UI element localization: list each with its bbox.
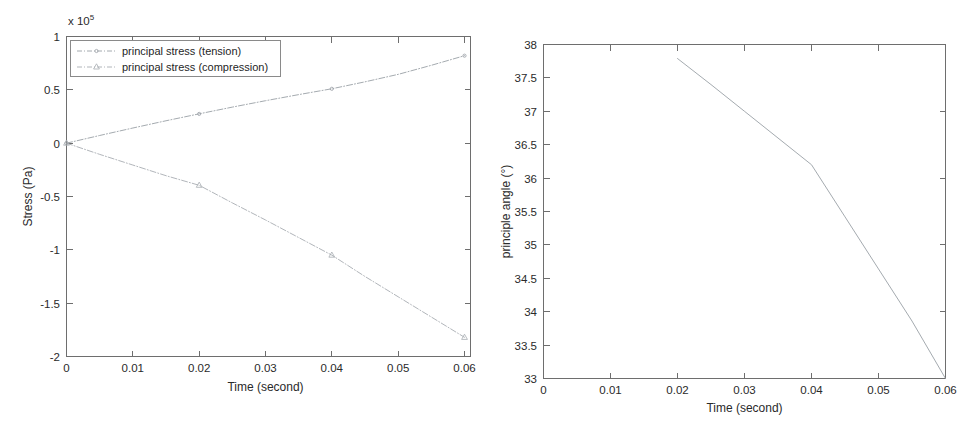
angle-x-ticks <box>544 45 946 379</box>
y-tick-label: 0 <box>54 138 60 150</box>
stress-plot-figure: x 105 <box>0 0 490 421</box>
y-tick-label: 36.5 <box>515 139 537 151</box>
y-tick-label: 37.5 <box>515 72 537 84</box>
y-tick-label: 0.5 <box>44 84 60 96</box>
angle-plot-svg: 38 37.5 37 36.5 36 35.5 35 34.5 34 33.5 … <box>490 0 977 421</box>
compression-series-line <box>67 143 465 337</box>
y-tick-label: -2 <box>50 351 60 363</box>
x-tick-label: 0.05 <box>387 362 409 374</box>
stress-y-axis-title: Stress (Pa) <box>21 166 35 226</box>
y-tick-label: 38 <box>524 39 537 51</box>
legend-label-tension: principal stress (tension) <box>122 45 241 57</box>
angle-y-axis-title: principle angle (°) <box>499 165 513 259</box>
y-tick-label: 33 <box>524 373 537 385</box>
angle-y-tick-labels: 38 37.5 37 36.5 36 35.5 35 34.5 34 33.5 … <box>515 39 538 385</box>
x-tick-label: 0 <box>540 384 546 396</box>
y-tick-label: -0.5 <box>40 191 60 203</box>
angle-y-ticks <box>544 45 946 379</box>
x-tick-label: 0.04 <box>800 384 823 396</box>
legend-label-compression: principal stress (compression) <box>122 61 268 73</box>
x-tick-label: 0.06 <box>934 384 956 396</box>
angle-plot-box <box>544 45 946 379</box>
x-tick-label: 0.01 <box>599 384 621 396</box>
stress-x-axis-title: Time (second) <box>227 380 303 394</box>
compression-markers <box>64 140 468 339</box>
y-exponent-label: x 105 <box>68 13 95 27</box>
stress-y-ticks <box>67 37 471 357</box>
x-tick-label: 0.05 <box>867 384 889 396</box>
y-tick-label: 36 <box>524 173 537 185</box>
stress-x-ticks <box>67 37 465 357</box>
y-tick-label: 1 <box>54 31 60 43</box>
stress-x-tick-labels: 0 0.01 0.02 0.03 0.04 0.05 0.06 <box>63 362 475 374</box>
dual-plot-figure: x 105 <box>0 0 977 421</box>
angle-x-axis-title: Time (second) <box>706 401 782 415</box>
stress-legend[interactable]: principal stress (tension) principal str… <box>71 41 281 77</box>
stress-plot-box <box>67 37 471 357</box>
stress-y-tick-labels: 1 0.5 0 -0.5 -1 -1.5 -2 <box>40 31 60 363</box>
x-tick-label: 0 <box>63 362 69 374</box>
x-tick-label: 0.03 <box>733 384 755 396</box>
x-tick-label: 0.02 <box>666 384 688 396</box>
y-tick-label: 35.5 <box>515 206 537 218</box>
x-tick-label: 0.04 <box>321 362 344 374</box>
x-tick-label: 0.06 <box>453 362 475 374</box>
x-tick-label: 0.03 <box>254 362 276 374</box>
y-tick-label: -1 <box>50 244 60 256</box>
y-tick-label: 35 <box>524 239 537 251</box>
y-tick-label: 34 <box>524 306 537 318</box>
x-tick-label: 0.02 <box>188 362 210 374</box>
y-tick-label: -1.5 <box>40 298 60 310</box>
stress-plot-svg: x 105 <box>0 0 490 421</box>
y-tick-label: 37 <box>524 106 537 118</box>
angle-series-line-segment-1 <box>678 59 946 379</box>
y-tick-label: 33.5 <box>515 340 537 352</box>
y-tick-label: 34.5 <box>515 273 537 285</box>
angle-x-tick-labels: 0 0.01 0.02 0.03 0.04 0.05 0.06 <box>540 384 956 396</box>
angle-plot-figure: 38 37.5 37 36.5 36 35.5 35 34.5 34 33.5 … <box>490 0 977 421</box>
x-tick-label: 0.01 <box>122 362 144 374</box>
